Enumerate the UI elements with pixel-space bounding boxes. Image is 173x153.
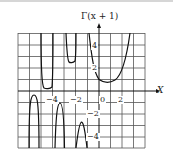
x-tick-label: 0 <box>99 96 106 104</box>
y-tick-label: −2 <box>86 110 100 118</box>
x-tick-label: 2 <box>117 96 124 104</box>
curve-branch-m5 <box>41 33 53 89</box>
x-tick-label: −2 <box>69 96 83 104</box>
curve-branch-m3 <box>66 33 76 63</box>
y-tick-label: −4 <box>86 133 100 141</box>
y-axis-label: Γ(x + 1) <box>81 11 118 21</box>
x-axis-label: X <box>157 85 163 95</box>
gamma-plot <box>0 0 173 153</box>
curve-branch-m6 <box>29 95 39 148</box>
y-tick-label: 2 <box>91 64 98 72</box>
y-axis-arrow-icon <box>97 23 101 28</box>
x-tick-label: −4 <box>45 96 59 104</box>
y-tick-label: 4 <box>91 42 98 50</box>
